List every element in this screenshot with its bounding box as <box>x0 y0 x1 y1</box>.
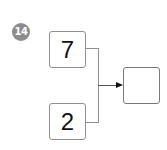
problem-number-badge: 14 <box>12 23 30 41</box>
answer-box[interactable] <box>123 67 160 104</box>
arrow-right-icon <box>116 82 123 88</box>
input-box-top: 7 <box>49 31 86 68</box>
connector-to-output <box>98 85 117 86</box>
input-box-bottom: 2 <box>49 103 86 140</box>
